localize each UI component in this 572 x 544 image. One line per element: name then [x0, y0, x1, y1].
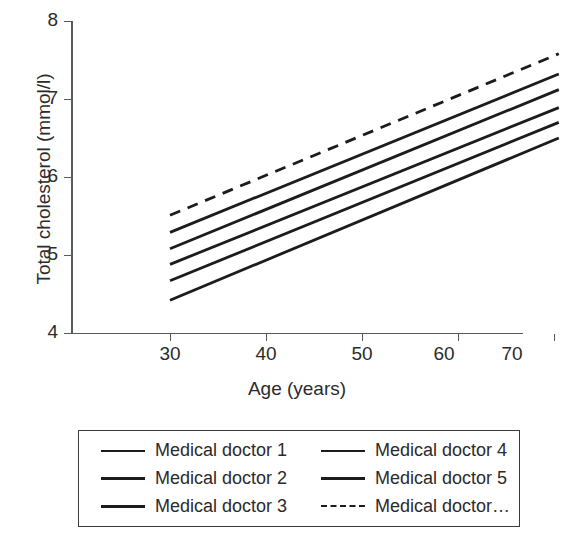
- plot-area: 8 7 6 5 4 30 40 50 60 70 Total cholester…: [0, 0, 572, 400]
- series-line: [170, 108, 559, 265]
- legend-line-icon: [101, 472, 145, 484]
- legend-label-0: Medical doctor 1: [155, 440, 287, 461]
- legend-line-icon: [101, 500, 145, 512]
- legend-item-0[interactable]: Medical doctor 1: [79, 440, 299, 461]
- legend-dashed-line-icon: [321, 500, 365, 512]
- legend-box: Medical doctor 1 Medical doctor 4 Medica…: [78, 430, 520, 527]
- series-lines: [0, 0, 572, 400]
- chart-figure: 8 7 6 5 4 30 40 50 60 70 Total cholester…: [0, 0, 572, 544]
- legend-line-icon: [321, 472, 365, 484]
- series-line: [170, 90, 559, 249]
- series-line: [170, 122, 559, 280]
- legend-item-5[interactable]: Medical doctor…: [299, 496, 519, 517]
- legend-label-3: Medical doctor 5: [375, 468, 507, 489]
- legend-item-2[interactable]: Medical doctor 2: [79, 468, 299, 489]
- legend-item-1[interactable]: Medical doctor 4: [299, 440, 519, 461]
- legend-label-4: Medical doctor 3: [155, 496, 287, 517]
- series-line: [170, 138, 559, 300]
- legend-label-5: Medical doctor…: [375, 496, 510, 517]
- legend-label-1: Medical doctor 4: [375, 440, 507, 461]
- legend-item-4[interactable]: Medical doctor 3: [79, 496, 299, 517]
- series-line: [170, 74, 559, 232]
- series-line: [170, 54, 559, 215]
- legend-item-3[interactable]: Medical doctor 5: [299, 468, 519, 489]
- legend-grid: Medical doctor 1 Medical doctor 4 Medica…: [79, 431, 519, 526]
- legend-line-icon: [101, 445, 145, 457]
- legend-label-2: Medical doctor 2: [155, 468, 287, 489]
- legend-line-icon: [321, 445, 365, 457]
